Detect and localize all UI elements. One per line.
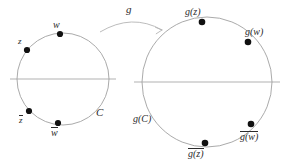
point-gz-top: [199, 19, 206, 26]
arrow-head-icon: [156, 27, 163, 34]
label-w-bottom: w: [51, 127, 58, 139]
label-circle-C: C: [96, 107, 103, 118]
point-gw-upper: [245, 39, 252, 46]
mapping-arrow-group: [100, 22, 162, 34]
arrow-curve: [100, 22, 162, 32]
label-gw-upper: g(w): [245, 27, 263, 37]
point-z-lower: [26, 108, 32, 114]
point-gw-lower: [248, 121, 255, 128]
label-gz-bottom: g(z): [188, 148, 204, 160]
label-map-g: g: [126, 4, 132, 15]
point-z-upper: [24, 47, 30, 53]
label-z-lower: z: [19, 115, 23, 125]
label-circle-gC: g(C): [133, 114, 151, 124]
point-gz-bottom: [202, 140, 209, 147]
point-w-top: [57, 31, 63, 37]
point-w-bottom: [55, 120, 61, 126]
label-gw-lower: g(w): [240, 131, 258, 143]
label-z-upper: z: [18, 37, 22, 46]
label-w-top: w: [53, 20, 60, 30]
label-gz-top: g(z): [185, 7, 201, 17]
figure-canvas: w z z w C g g(z) g(w) g(w) g(z) g(C): [0, 0, 284, 166]
